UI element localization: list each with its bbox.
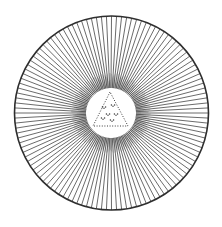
radiant-disc-illustration: [0, 0, 222, 227]
inner-white-disc: [87, 89, 135, 137]
